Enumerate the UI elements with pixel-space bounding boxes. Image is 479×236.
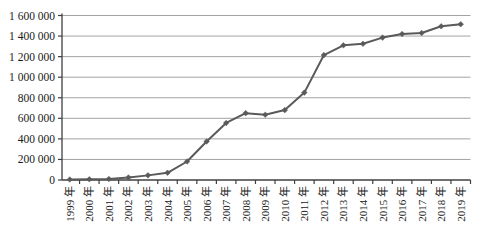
y-tick-label: 1 200 000 bbox=[9, 51, 55, 63]
line-chart: 0200 000400 000600 000800 0001 000 0001 … bbox=[0, 0, 479, 236]
y-tick-label: 800 000 bbox=[18, 92, 56, 104]
x-tick-label: 2009 年 bbox=[258, 186, 271, 222]
x-tick-label: 2005 年 bbox=[180, 186, 193, 222]
x-tick-label: 2004 年 bbox=[161, 186, 174, 222]
x-tick-label: 2003 年 bbox=[141, 186, 154, 222]
x-tick-label: 2012 年 bbox=[317, 186, 330, 222]
y-tick-label: 1 000 000 bbox=[9, 71, 55, 83]
y-tick-label: 400 000 bbox=[18, 133, 56, 145]
x-tick-label: 2018 年 bbox=[434, 186, 447, 222]
x-tick-label: 2014 年 bbox=[356, 186, 369, 222]
y-tick-label: 1 400 000 bbox=[9, 30, 55, 42]
x-tick-label: 2016 年 bbox=[395, 186, 408, 222]
x-tick-label: 2010 年 bbox=[278, 186, 291, 222]
y-tick-label: 0 bbox=[49, 174, 55, 186]
x-tick-label: 2007 年 bbox=[219, 186, 232, 222]
x-tick-label: 2000 年 bbox=[82, 186, 95, 222]
y-tick-label: 1 600 000 bbox=[9, 10, 55, 22]
x-tick-label: 2015 年 bbox=[376, 186, 389, 222]
x-tick-label: 1999 年 bbox=[63, 186, 76, 222]
x-tick-label: 2013 年 bbox=[336, 186, 349, 222]
x-tick-label: 2001 年 bbox=[102, 186, 115, 222]
x-tick-label: 2011 年 bbox=[297, 186, 310, 221]
x-tick-label: 2017 年 bbox=[415, 186, 428, 222]
x-tick-label: 2002 年 bbox=[121, 186, 134, 222]
x-tick-label: 2008 年 bbox=[239, 186, 252, 222]
y-tick-label: 200 000 bbox=[18, 153, 56, 165]
line-chart-container: 0200 000400 000600 000800 0001 000 0001 … bbox=[0, 0, 479, 236]
x-tick-label: 2006 年 bbox=[200, 186, 213, 222]
y-tick-label: 600 000 bbox=[18, 112, 56, 124]
x-tick-label: 2019 年 bbox=[454, 186, 467, 222]
